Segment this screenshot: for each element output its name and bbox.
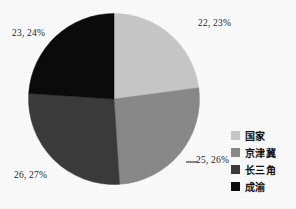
data-label-chengyu: 23, 24%: [12, 28, 45, 38]
legend-swatch-icon-2: [231, 165, 240, 174]
legend-label-1: 京津冀: [245, 145, 276, 160]
data-label-guojia: 22, 23%: [198, 18, 231, 28]
legend-item-2[interactable]: 长三角: [231, 162, 276, 176]
legend-item-0[interactable]: 国家: [231, 128, 276, 142]
legend-item-1[interactable]: 京津冀: [231, 145, 276, 159]
legend-swatch-icon-3: [231, 182, 240, 191]
pie-slice-3: [29, 14, 114, 100]
legend-label-3: 成渝: [245, 179, 266, 194]
data-label-jingjinji: 25, 26%: [196, 155, 229, 165]
pie-chart-figure: 22, 23% 25, 26% 26, 27% 23, 24% 国家京津冀长三角…: [0, 0, 296, 209]
legend-label-0: 国家: [245, 128, 266, 143]
legend-swatch-icon-1: [231, 148, 240, 157]
pie-slice-group: [28, 14, 199, 185]
data-label-changsanjiao: 26, 27%: [14, 170, 47, 180]
chart-legend: 国家京津冀长三角成渝: [231, 128, 276, 193]
pie-slice-1: [114, 88, 200, 184]
pie-slice-0: [114, 14, 199, 100]
legend-item-3[interactable]: 成渝: [231, 179, 276, 193]
legend-label-2: 长三角: [245, 162, 276, 177]
legend-swatch-icon-0: [231, 131, 240, 140]
